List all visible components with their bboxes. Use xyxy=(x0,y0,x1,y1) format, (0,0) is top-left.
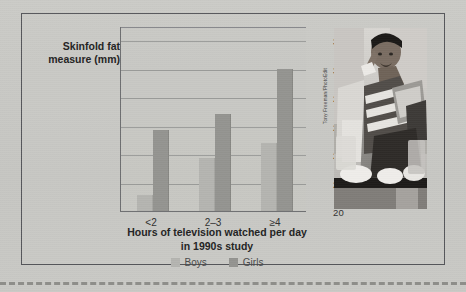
y-axis-title-line-2: measure (mm) xyxy=(36,53,120,66)
page-dashed-divider xyxy=(0,282,466,285)
x-axis-title-line-2: in 1990s study xyxy=(82,240,352,254)
photo-figure: Tony Freeman/PhotoEdit xyxy=(334,28,427,209)
y-axis-title-line-1: Skinfold fat xyxy=(36,40,120,53)
x-axis-title-line-1: Hours of television watched per day xyxy=(82,226,352,240)
plot-area xyxy=(120,27,306,212)
gridline-32 xyxy=(121,41,306,42)
x-axis-title: Hours of television watched per day in 1… xyxy=(82,226,352,253)
bar-girls-2 xyxy=(277,69,293,211)
bar-girls-1 xyxy=(215,114,231,211)
bar-boys-0 xyxy=(137,195,153,211)
bar-boys-1 xyxy=(199,158,215,211)
photo-image xyxy=(334,28,427,209)
y-axis-title: Skinfold fat measure (mm) xyxy=(36,40,120,66)
bar-girls-0 xyxy=(153,130,169,211)
bar-boys-2 xyxy=(261,143,277,211)
bar-chart: Skinfold fat measure (mm) 20222426283032… xyxy=(22,14,446,266)
legend-swatch-boys-icon xyxy=(171,258,180,267)
legend-label-boys: Boys xyxy=(185,257,207,268)
legend-label-girls: Girls xyxy=(243,257,264,268)
chart-legend: Boys Girls xyxy=(82,257,352,268)
legend-swatch-girls-icon xyxy=(229,258,238,267)
legend-item-girls: Girls xyxy=(229,257,264,268)
gridline-top xyxy=(121,27,306,28)
legend-item-boys: Boys xyxy=(171,257,207,268)
figure-frame: Skinfold fat measure (mm) 20222426283032… xyxy=(21,13,445,265)
photo-illustration-icon xyxy=(334,28,427,209)
photo-credit: Tony Freeman/PhotoEdit xyxy=(323,38,328,124)
